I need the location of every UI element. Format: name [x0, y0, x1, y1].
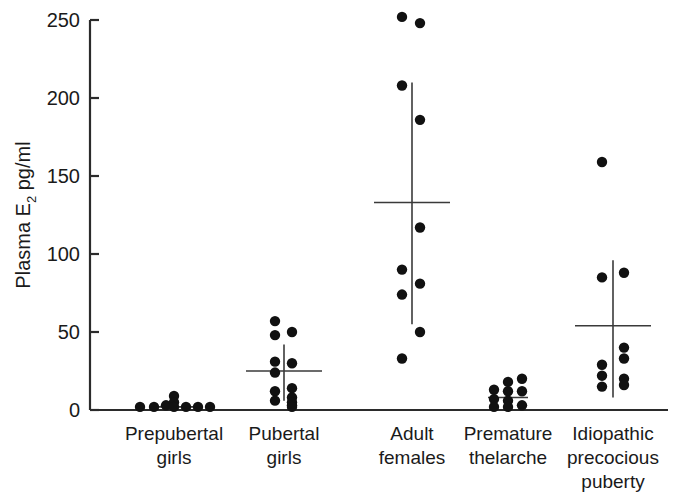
data-point	[397, 264, 407, 274]
data-point	[517, 400, 527, 410]
x-axis-category-label: females	[379, 447, 446, 468]
data-point	[415, 18, 425, 28]
data-point	[193, 402, 203, 412]
x-axis-category-label: thelarche	[469, 447, 547, 468]
x-axis-category-label: Idiopathic	[572, 423, 653, 444]
figure-container: 050100150200250Plasma E2 pg/mlPrepuberta…	[0, 0, 674, 492]
data-point	[287, 327, 297, 337]
data-point	[149, 402, 159, 412]
data-point	[503, 402, 513, 412]
data-point	[597, 360, 607, 370]
y-axis-tick-label: 150	[47, 165, 80, 187]
group-2	[246, 316, 322, 412]
data-point	[415, 278, 425, 288]
data-point	[397, 289, 407, 299]
data-point	[597, 272, 607, 282]
data-point	[205, 402, 215, 412]
data-point	[597, 381, 607, 391]
y-axis-title-text: Plasma E2 pg/ml	[12, 141, 39, 288]
data-point	[287, 358, 297, 368]
data-point	[397, 12, 407, 22]
x-axis-category-label: Prepubertal	[125, 423, 223, 444]
x-axis-category-label: Premature	[464, 423, 553, 444]
x-axis-category-label: girls	[157, 447, 192, 468]
data-point	[135, 402, 145, 412]
data-point	[287, 383, 297, 393]
group-4	[488, 374, 528, 412]
data-point	[270, 386, 280, 396]
data-point	[415, 327, 425, 337]
y-axis-title-main: Plasma E	[12, 203, 34, 289]
y-axis-tick-label: 100	[47, 243, 80, 265]
data-point	[270, 330, 280, 340]
data-point	[597, 370, 607, 380]
data-point	[597, 157, 607, 167]
data-point	[489, 385, 499, 395]
scatter-plot: 050100150200250Plasma E2 pg/mlPrepuberta…	[0, 0, 674, 492]
data-point	[415, 115, 425, 125]
data-point	[619, 268, 629, 278]
data-point	[619, 380, 629, 390]
data-point	[169, 402, 179, 412]
data-point	[287, 402, 297, 412]
x-axis-category-label: puberty	[581, 471, 645, 492]
data-point	[397, 353, 407, 363]
y-axis-tick-label: 200	[47, 87, 80, 109]
data-point	[270, 395, 280, 405]
y-axis-tick-label: 250	[47, 9, 80, 31]
y-axis-tick-label: 0	[69, 399, 80, 421]
x-axis-category-label: precocious	[567, 447, 659, 468]
data-point	[619, 342, 629, 352]
data-point	[517, 386, 527, 396]
x-axis-category-label: Pubertal	[249, 423, 320, 444]
data-point	[270, 316, 280, 326]
y-axis-title: Plasma E2 pg/ml	[12, 141, 39, 288]
data-point	[489, 402, 499, 412]
data-point	[619, 353, 629, 363]
y-axis-title-tail: pg/ml	[12, 141, 34, 195]
group-1	[135, 391, 215, 412]
data-point	[517, 374, 527, 384]
data-point	[415, 222, 425, 232]
data-point	[503, 377, 513, 387]
data-point	[270, 367, 280, 377]
group-5	[575, 157, 651, 398]
data-point	[181, 402, 191, 412]
x-axis-category-label: girls	[267, 447, 302, 468]
data-point	[270, 356, 280, 366]
y-axis-tick-label: 50	[58, 321, 80, 343]
y-axis-title-subscript: 2	[24, 196, 39, 203]
data-point	[397, 80, 407, 90]
data-point	[503, 386, 513, 396]
group-3	[374, 12, 450, 364]
x-axis-category-label: Adult	[390, 423, 434, 444]
